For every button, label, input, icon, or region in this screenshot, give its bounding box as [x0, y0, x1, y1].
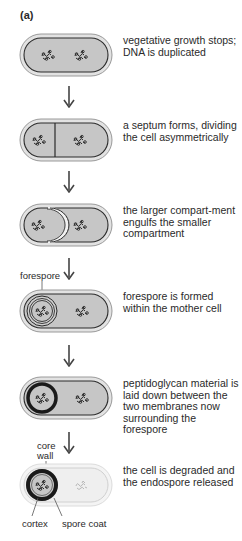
step-3-description: the larger compart-ment engulfs the smal… — [123, 205, 241, 240]
arrow-down-icon — [62, 432, 76, 454]
arrow-down-icon — [62, 258, 76, 280]
step-6-description: the cell is degraded and the endospore r… — [123, 465, 241, 488]
label-forespore: forespore — [20, 270, 60, 281]
cell-vegetative — [18, 31, 114, 79]
step-2-description: a septum forms, dividing the cell asymme… — [123, 120, 241, 143]
step-4-description: forespore is formed within the mother ce… — [123, 291, 241, 314]
cell-cortex-formation — [18, 374, 114, 422]
arrow-down-icon — [62, 86, 76, 108]
label-wall: wall — [37, 450, 53, 461]
label-spore-coat: spore coat — [62, 518, 106, 529]
cell-forespore — [18, 287, 114, 335]
step-5-description: peptidoglycan material is laid down betw… — [123, 378, 241, 436]
step-1-description: vegetative growth stops; DNA is duplicat… — [123, 35, 241, 58]
leader-lines-bottom — [24, 498, 64, 518]
arrow-down-icon — [62, 171, 76, 193]
label-cortex: cortex — [22, 518, 48, 529]
cell-engulfment — [18, 201, 114, 249]
arrow-down-icon — [62, 345, 76, 367]
panel-label: (a) — [20, 9, 33, 21]
cell-septum — [18, 116, 114, 164]
